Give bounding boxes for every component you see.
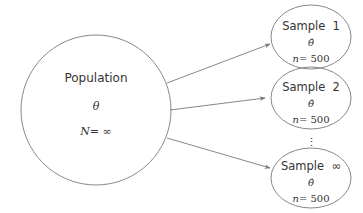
sample-label: Sample ∞ <box>281 159 341 173</box>
arrow-to-sample-2 <box>170 98 265 110</box>
sample-estimator: θ̂ <box>308 37 314 48</box>
sample-estimator: θ̂ <box>308 177 314 188</box>
sample-size: n= 500 <box>292 53 329 64</box>
sample-label: Sample 2 <box>282 80 340 94</box>
sample-infinity-node: Sample ∞ θ̂ n= 500 <box>271 148 351 208</box>
sample-size: n= 500 <box>292 193 329 204</box>
population-node: Population θ N= ∞ <box>21 35 171 185</box>
sample-estimator: θ̂ <box>308 98 314 109</box>
arrow-to-sample-1 <box>167 44 270 83</box>
ellipsis-dots: ⋮ <box>306 136 317 149</box>
sample-label: Sample 1 <box>282 19 340 33</box>
sample-1-node: Sample 1 θ̂ n= 500 <box>271 5 351 69</box>
sampling-diagram: Population θ N= ∞ Sample 1 θ̂ n= 500 Sam… <box>0 0 363 213</box>
population-parameter: θ <box>93 100 100 113</box>
population-size: N= ∞ <box>79 125 112 138</box>
sample-size: n= 500 <box>292 114 329 125</box>
arrow-to-sample-inf <box>167 138 270 168</box>
sample-2-node: Sample 2 θ̂ n= 500 <box>271 67 351 129</box>
population-label: Population <box>64 71 127 85</box>
